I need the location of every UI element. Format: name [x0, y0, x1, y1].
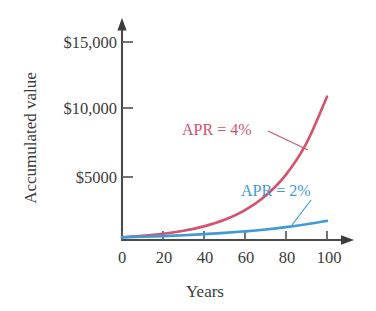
leader-line-apr-4	[268, 131, 308, 150]
y-axis-arrowhead	[117, 18, 126, 31]
x-tick-label-100: 100	[317, 248, 342, 267]
x-tick-label-40: 40	[197, 248, 214, 267]
leader-line-apr-2	[292, 200, 311, 225]
x-tick-label-80: 80	[279, 248, 296, 267]
series-label-apr-4: APR = 4%	[182, 121, 251, 138]
y-axis-tick-labels: $15,000 $10,000 $5000	[63, 33, 117, 187]
series-line-apr-4	[122, 97, 327, 238]
x-axis-tick-labels: 0 20 40 60 80 100	[118, 248, 342, 267]
y-tick-label-5000: $5000	[76, 168, 117, 187]
y-axis-ticks	[122, 42, 133, 177]
data-series-group	[122, 97, 327, 238]
accumulated-value-chart: $15,000 $10,000 $5000 0 20 40 60 80 100 …	[0, 0, 376, 311]
chart-canvas: $15,000 $10,000 $5000 0 20 40 60 80 100 …	[0, 0, 376, 311]
x-tick-label-0: 0	[118, 248, 126, 267]
series-label-apr-2: APR = 2%	[241, 182, 310, 199]
x-tick-label-20: 20	[156, 248, 173, 267]
x-tick-label-60: 60	[238, 248, 255, 267]
x-axis-title: Years	[186, 282, 224, 301]
y-tick-label-10000: $10,000	[63, 99, 117, 118]
x-axis-arrowhead	[341, 235, 354, 245]
y-axis-title: Accumulated value	[21, 72, 40, 204]
y-tick-label-15000: $15,000	[63, 33, 117, 52]
